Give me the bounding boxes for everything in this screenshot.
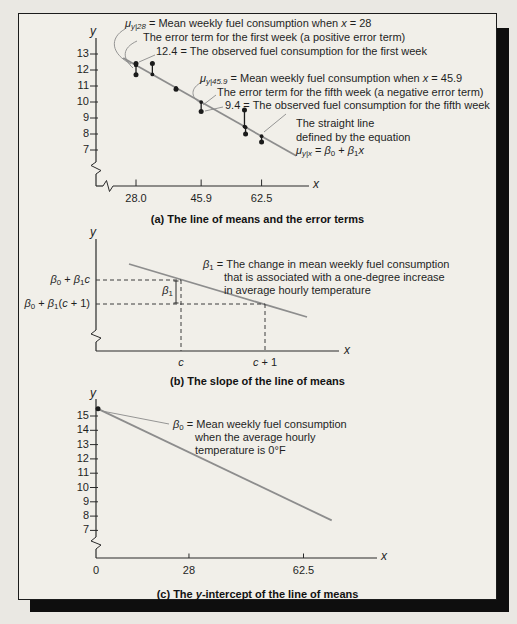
panel-a-y-tick-label: 11 xyxy=(63,79,89,91)
panel-a-caption: (a) The line of means and the error term… xyxy=(19,213,496,225)
page: y x μy|28 = Mean weekly fuel consumption… xyxy=(0,0,517,624)
figure-box: y x μy|28 = Mean weekly fuel consumption… xyxy=(18,13,497,600)
panel-c-y-tick-label: 14 xyxy=(63,423,89,435)
annotation-straight-line: The straight line defined by the equatio… xyxy=(296,117,410,161)
annotation-error-week5: The error term for the fifth week (a neg… xyxy=(217,86,484,100)
panel-b-y-axis-letter: y xyxy=(90,225,96,239)
mean-point xyxy=(244,125,248,129)
panel-c-y-tick-label: 10 xyxy=(63,481,89,493)
panel-a-y-tick-label: 12 xyxy=(63,63,89,75)
observed-point xyxy=(259,140,264,145)
panel-a-x-tick-label: 62.5 xyxy=(244,192,280,204)
annotation-straight-line-1: The straight line xyxy=(296,117,410,131)
leader-line xyxy=(205,107,223,111)
observed-point xyxy=(150,61,155,66)
panel-a-y-tick-label: 8 xyxy=(63,127,89,139)
annotation-observed-week5: 9.4 = The observed fuel consumption for … xyxy=(225,99,490,113)
observed-point xyxy=(174,87,179,92)
leader-line xyxy=(203,95,216,105)
leader-line xyxy=(139,55,155,62)
annotation-slope-2: that is associated with a one-degree inc… xyxy=(224,271,445,285)
panel-c-y-tick-label: 11 xyxy=(63,466,89,478)
panel-a-x-tick-label: 45.9 xyxy=(183,192,219,204)
leader-line xyxy=(102,411,169,424)
axis-value-b0-b1c: β0 + β1c xyxy=(19,273,90,290)
x-tick-label-c1: c + 1 xyxy=(249,356,281,370)
annotation-intercept-3: temperature is 0°F xyxy=(195,444,286,458)
panel-a-x-tick-label: 28.0 xyxy=(118,192,154,204)
panel-c-x-tick-label: 62.5 xyxy=(286,564,322,576)
panel-c-y-tick-label: 12 xyxy=(63,452,89,464)
panel-b-x-axis-letter: x xyxy=(344,343,350,357)
mean-point xyxy=(134,63,138,67)
panel-c-y-tick-label: 8 xyxy=(63,509,89,521)
annotation-error-week1: The error term for the first week (a pos… xyxy=(143,31,405,45)
panel-a-x-axis-break xyxy=(103,181,113,192)
panel-c-x-tick-label: 0 xyxy=(78,564,114,576)
panel-c-x-axis-letter: x xyxy=(381,549,387,563)
observed-point xyxy=(134,72,139,77)
mean-point xyxy=(150,73,154,77)
panel-c-x-tick-label: 28 xyxy=(171,564,207,576)
axis-value-b0-b1c1: β0 + β1(c + 1) xyxy=(19,297,90,314)
annotation-straight-line-2: defined by the equation xyxy=(296,131,410,145)
panel-c-y-tick-label: 13 xyxy=(63,438,89,450)
x-tick-label-c: c xyxy=(173,356,189,370)
panel-c-y-tick-label: 9 xyxy=(63,495,89,507)
annotation-intercept-2: when the average hourly xyxy=(195,431,315,445)
panel-a-y-tick-label: 13 xyxy=(63,47,89,59)
panel-c-caption: (c) The y-intercept of the line of means xyxy=(19,588,496,600)
intercept-point xyxy=(96,406,101,411)
panel-a-y-axis-break xyxy=(91,162,101,174)
annotation-line-equation: μy|x = β0 + β1x xyxy=(296,144,410,161)
panel-a-x-axis-letter: x xyxy=(313,177,319,191)
slope-beta1-label: β1 xyxy=(147,284,173,301)
panel-c-y-tick-label: 7 xyxy=(63,523,89,535)
observed-point xyxy=(243,132,248,137)
annotation-slope-3: in average hourly temperature xyxy=(224,284,371,298)
panel-a-y-tick-label: 9 xyxy=(63,111,89,123)
mean-point xyxy=(260,134,264,138)
mean-point xyxy=(199,100,203,104)
observed-point xyxy=(199,109,204,114)
panel-b-y-axis-break xyxy=(91,330,101,342)
annotation-observed-week1: 12.4 = The observed fuel consumption for… xyxy=(156,45,427,59)
panel-a-y-tick-label: 7 xyxy=(63,143,89,155)
panel-a-y-axis-letter: y xyxy=(90,24,96,38)
panel-c-y-tick-label: 15 xyxy=(63,409,89,421)
panel-c-y-axis-letter: y xyxy=(90,386,96,400)
leader-line xyxy=(264,114,286,132)
panel-a-y-tick-label: 10 xyxy=(63,95,89,107)
panel-c-y-axis-break xyxy=(91,537,101,549)
